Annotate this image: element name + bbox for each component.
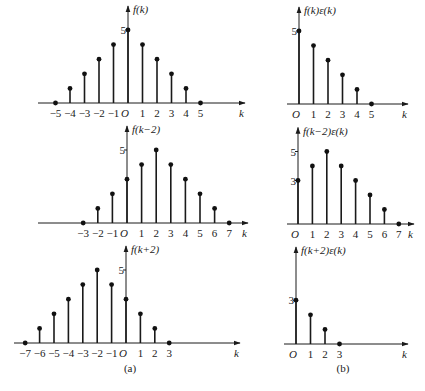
stem-point [66, 297, 71, 302]
stem-point [396, 222, 401, 227]
stem-point [95, 206, 100, 211]
stem-plot-b-top: f(k)ε(k)k5O12345 [287, 4, 408, 120]
stem-point [340, 72, 345, 77]
stem-point [294, 298, 299, 303]
k-tick-label: O [291, 228, 299, 240]
k-axis-label: k [402, 108, 408, 120]
plot-title: f(k) [133, 3, 149, 16]
stem-point [326, 58, 331, 63]
k-tick-label: 3 [340, 108, 346, 120]
stem-point [368, 193, 373, 198]
k-tick-label: 2 [152, 347, 158, 359]
k-tick-label: 6 [382, 228, 388, 240]
k-tick-label: 1 [140, 107, 146, 119]
stem-plot-a-bot: f(k+2)k5−7−6−5−4−3−2−1O123 [14, 243, 240, 359]
y-tick-label: 5 [291, 146, 297, 158]
k-tick-label: 5 [367, 228, 373, 240]
stem-point [53, 101, 58, 106]
k-tick-label: −3 [77, 227, 89, 239]
k-axis-label: k [402, 348, 408, 360]
stem-point [124, 297, 129, 302]
k-tick-label: 5 [197, 227, 203, 239]
stem-point [125, 177, 130, 182]
stem-point [339, 164, 344, 169]
k-tick-label: 1 [311, 108, 317, 120]
k-tick-label: −4 [63, 347, 75, 359]
k-tick-label: O [119, 347, 127, 359]
stem-point [152, 326, 157, 331]
stem-point [198, 101, 203, 106]
stem-point [311, 43, 316, 48]
k-tick-label: 2 [154, 107, 160, 119]
stem-point [95, 268, 100, 273]
stem-point [68, 86, 73, 91]
stem-point [52, 311, 57, 316]
stem-point [198, 191, 203, 196]
k-tick-label: O [120, 227, 128, 239]
y-tick-label: 5 [121, 24, 127, 36]
k-tick-label: 4 [183, 107, 189, 119]
stem-point [97, 57, 102, 62]
y-tick-label: 5 [119, 264, 125, 276]
stem-point [140, 42, 145, 47]
k-tick-label: 2 [322, 348, 328, 360]
stem-point [23, 341, 28, 346]
stem-point [168, 162, 173, 167]
k-tick-label: O [121, 107, 129, 119]
stem-point [154, 148, 159, 153]
k-tick-label: 7 [226, 227, 232, 239]
stem-point [155, 57, 160, 62]
stem-point [310, 164, 315, 169]
k-tick-label: 5 [198, 107, 204, 119]
k-tick-label: 3 [338, 228, 344, 240]
k-tick-label: O [289, 348, 297, 360]
stem-plot-b-bot: f(k+2)ε(k)k3O123 [284, 244, 408, 360]
k-tick-label: O [292, 108, 300, 120]
caption-b: (b) [337, 362, 350, 375]
k-axis-label: k [242, 227, 248, 239]
k-tick-label: −1 [107, 227, 119, 239]
k-tick-label: −1 [106, 347, 118, 359]
plot-title: f(k+2)ε(k) [301, 244, 346, 257]
k-tick-label: 4 [183, 227, 189, 239]
stem-point [126, 28, 131, 33]
stem-plot-a-top: f(k)k5−5−4−3−2−1O12345 [38, 3, 245, 119]
stem-point [369, 102, 374, 107]
stem-point [138, 311, 143, 316]
stem-point [109, 282, 114, 287]
k-axis-label: k [234, 347, 240, 359]
stem-point [323, 327, 328, 332]
k-tick-label: −1 [108, 107, 120, 119]
k-tick-label: 3 [168, 227, 174, 239]
k-axis-label: k [408, 228, 414, 240]
stem-point [169, 71, 174, 76]
stem-point [227, 221, 232, 226]
k-tick-label: 6 [212, 227, 218, 239]
plot-title: f(k+2) [131, 243, 160, 256]
y-tick-label: 5 [120, 144, 126, 156]
k-tick-label: −2 [91, 347, 103, 359]
stem-point [353, 178, 358, 183]
k-tick-label: 3 [337, 348, 343, 360]
stem-point [110, 191, 115, 196]
stem-point [308, 312, 313, 317]
k-tick-label: −5 [48, 347, 60, 359]
k-tick-label: 1 [138, 347, 144, 359]
k-tick-label: 3 [169, 107, 175, 119]
stem-point [297, 29, 302, 34]
plot-title: f(k−2)ε(k) [303, 125, 348, 138]
k-tick-label: 4 [353, 228, 359, 240]
k-tick-label: −6 [34, 347, 46, 359]
k-tick-label: 2 [325, 108, 331, 120]
k-tick-label: 2 [153, 227, 159, 239]
stem-point [81, 221, 86, 226]
stem-point [82, 71, 87, 76]
k-tick-label: −3 [77, 347, 89, 359]
stem-point [184, 86, 189, 91]
stem-point [80, 282, 85, 287]
k-tick-label: −4 [64, 107, 76, 119]
k-tick-label: 4 [354, 108, 360, 120]
stem-point [296, 178, 301, 183]
stem-point [183, 177, 188, 182]
k-tick-label: 2 [324, 228, 330, 240]
